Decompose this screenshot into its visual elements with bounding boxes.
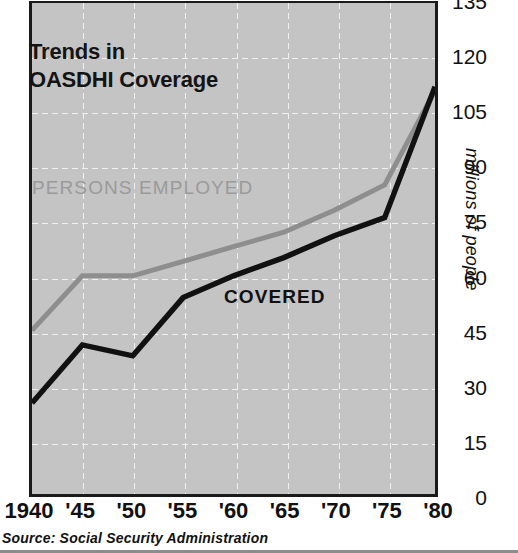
x-axis-tick: '80 bbox=[423, 500, 453, 522]
x-axis-tick: '50 bbox=[116, 500, 146, 522]
source-note: Source: Social Security Administration bbox=[2, 530, 268, 546]
y-axis-tick: 120 bbox=[452, 46, 487, 67]
x-axis-tick: '45 bbox=[65, 500, 95, 522]
y-axis-tick: 0 bbox=[475, 487, 487, 508]
x-axis-tick: '55 bbox=[168, 500, 198, 522]
x-axis-tick: '60 bbox=[219, 500, 249, 522]
y-axis-title: millions of people bbox=[461, 148, 482, 291]
x-axis-tick: '70 bbox=[321, 500, 351, 522]
chart-title: Trends in OASDHI Coverage bbox=[29, 38, 218, 94]
series-label-persons-employed: PERSONS EMPLOYED bbox=[32, 177, 253, 199]
y-axis-tick: 105 bbox=[452, 101, 487, 122]
chart-figure: Trends in OASDHI Coverage PERSONS EMPLOY… bbox=[0, 0, 518, 553]
x-axis-tick-labels: 1940'45'50'55'60'65'70'75'80 bbox=[0, 500, 460, 530]
y-axis-tick: 45 bbox=[464, 321, 487, 342]
x-axis-tick: 1940 bbox=[5, 500, 54, 522]
x-axis-tick: '65 bbox=[270, 500, 300, 522]
series-label-covered: COVERED bbox=[224, 286, 326, 308]
y-axis-tick: 15 bbox=[464, 431, 487, 452]
y-axis-tick: 30 bbox=[464, 376, 487, 397]
x-axis-tick: '75 bbox=[372, 500, 402, 522]
y-axis-tick: 135 bbox=[452, 0, 487, 12]
